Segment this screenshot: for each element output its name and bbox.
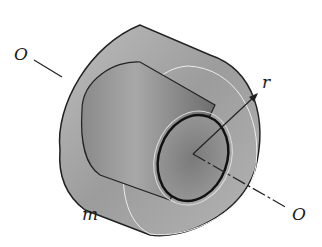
axis-label-left: O bbox=[14, 46, 28, 63]
diagram bbox=[0, 0, 322, 247]
axis-line-left bbox=[34, 60, 62, 77]
mass-label: m bbox=[82, 206, 98, 223]
radius-label: r bbox=[262, 74, 270, 91]
axis-label-right: O bbox=[292, 206, 306, 223]
